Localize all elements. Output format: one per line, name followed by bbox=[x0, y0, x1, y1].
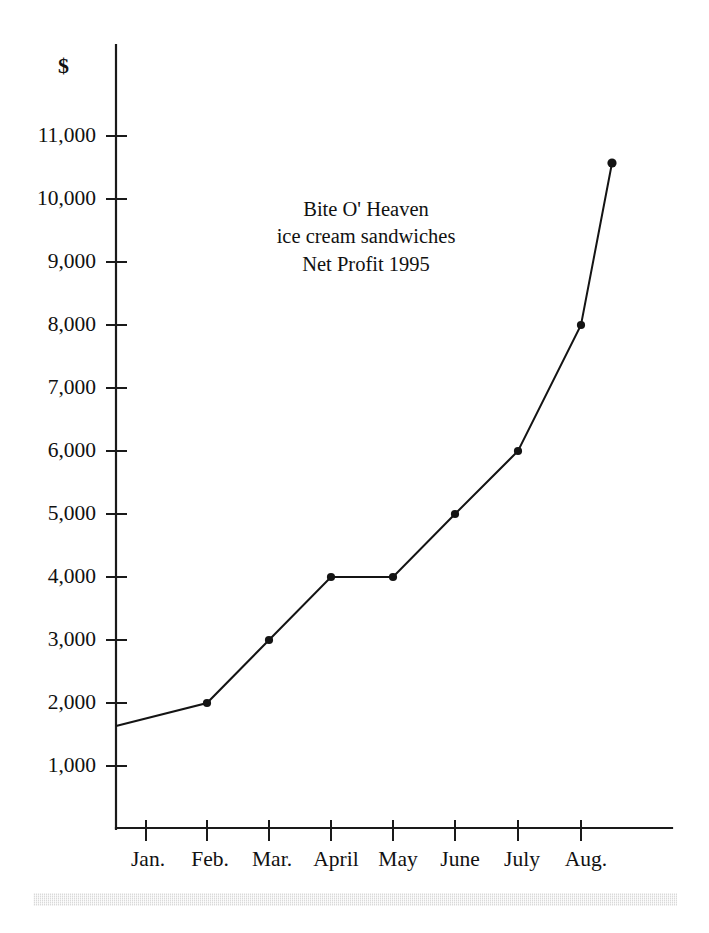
x-tick-label-feb: Feb. bbox=[191, 849, 229, 871]
y-tick-label-1000: 1,000 bbox=[0, 755, 96, 777]
data-point-feb bbox=[203, 699, 211, 707]
x-tick-label-april: April bbox=[313, 849, 358, 871]
y-tick-label-2000: 2,000 bbox=[0, 692, 96, 714]
chart-title-line-1: Bite O' Heaven bbox=[216, 196, 516, 223]
x-tick-label-july: July bbox=[504, 849, 540, 871]
data-point-mar bbox=[265, 636, 273, 644]
x-tick-label-jan: Jan. bbox=[131, 849, 165, 871]
line-chart: $ 11,000 10,000 9,000 8,000 7,000 6,000 … bbox=[0, 0, 709, 933]
data-point-aug bbox=[577, 321, 585, 329]
y-tick-label-7000: 7,000 bbox=[0, 377, 96, 399]
y-tick-label-3000: 3,000 bbox=[0, 629, 96, 651]
y-tick-label-5000: 5,000 bbox=[0, 503, 96, 525]
footer-rule bbox=[33, 893, 677, 906]
data-point-july bbox=[514, 447, 522, 455]
y-tick-label-6000: 6,000 bbox=[0, 440, 96, 462]
data-point-may bbox=[389, 573, 397, 581]
y-axis-unit-label: $ bbox=[58, 53, 69, 79]
data-point-april bbox=[327, 573, 335, 581]
y-tick-label-10000: 10,000 bbox=[0, 188, 96, 210]
data-point-final bbox=[607, 158, 616, 167]
data-point-june bbox=[451, 510, 459, 518]
chart-title-line-2: ice cream sandwiches bbox=[216, 223, 516, 250]
y-tick-label-4000: 4,000 bbox=[0, 566, 96, 588]
x-tick-label-mar: Mar. bbox=[252, 849, 292, 871]
y-tick-label-9000: 9,000 bbox=[0, 251, 96, 273]
x-axis-ticks bbox=[146, 820, 581, 841]
x-tick-label-june: June bbox=[440, 849, 479, 871]
chart-title: Bite O' Heaven ice cream sandwiches Net … bbox=[216, 196, 516, 278]
x-tick-label-may: May bbox=[378, 849, 417, 871]
x-tick-label-aug: Aug. bbox=[565, 849, 607, 871]
chart-title-line-3: Net Profit 1995 bbox=[216, 251, 516, 278]
y-tick-label-11000: 11,000 bbox=[0, 125, 96, 147]
plot-area bbox=[0, 0, 709, 933]
y-tick-label-8000: 8,000 bbox=[0, 314, 96, 336]
